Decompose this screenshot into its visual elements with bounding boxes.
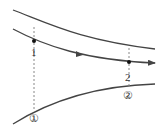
point-1-dot (32, 39, 36, 43)
point-2-label: 2 (125, 71, 131, 83)
section-2-label: ② (123, 89, 133, 101)
point-2-dot (127, 60, 131, 64)
flow-diagram: 1 2 ① ② (0, 0, 165, 132)
section-1-label: ① (29, 112, 39, 124)
point-1-label: 1 (31, 46, 37, 58)
